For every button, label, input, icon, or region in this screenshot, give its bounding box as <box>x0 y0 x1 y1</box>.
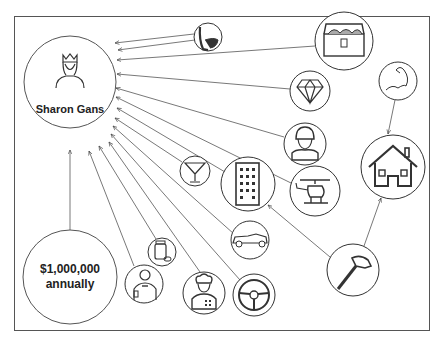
edge-steering <box>111 134 240 280</box>
edge-diamond <box>117 74 290 89</box>
bicep-icon <box>379 62 417 100</box>
central-node-label: Sharon Gans <box>30 102 110 116</box>
money-amount: $1,000,000 <box>25 262 115 277</box>
building-icon <box>221 157 275 211</box>
treasure-chest-icon <box>315 12 373 70</box>
car-icon <box>231 221 269 259</box>
waiter-icon <box>125 265 163 303</box>
money-period: annually <box>25 277 115 292</box>
source-node-label: $1,000,000 annually <box>25 262 115 292</box>
worker-icon <box>284 123 326 165</box>
toilet-icon <box>194 23 222 51</box>
edge-medicine <box>99 146 156 239</box>
edge-car <box>113 126 234 234</box>
chef-icon <box>183 272 225 314</box>
edge-bicep-house <box>388 100 395 134</box>
helicopter-icon <box>290 166 340 216</box>
edge-hammer-house <box>364 198 381 246</box>
house-icon <box>361 135 425 199</box>
relationship-diagram <box>0 0 444 346</box>
medicine-icon <box>148 238 176 266</box>
cocktail-icon <box>180 156 210 186</box>
edge-building <box>117 108 225 172</box>
edge-worker <box>116 88 284 137</box>
hammer-icon <box>327 244 379 296</box>
diamond-icon <box>290 71 330 111</box>
steering-wheel-icon <box>233 274 275 316</box>
